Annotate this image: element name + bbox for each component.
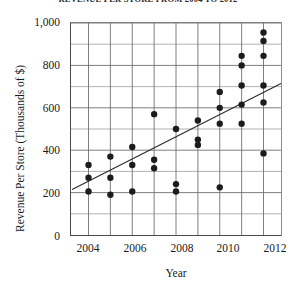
data-point [85, 175, 91, 181]
data-point [260, 53, 266, 59]
data-point [195, 117, 201, 123]
data-point [173, 188, 179, 194]
y-tick-label: 0 [16, 231, 60, 243]
y-tick-label: 400 [16, 145, 60, 157]
y-tick-label: 200 [16, 188, 60, 200]
data-point [238, 82, 244, 88]
data-point [260, 38, 266, 44]
data-point [107, 153, 113, 159]
data-point [173, 181, 179, 187]
data-point [129, 162, 135, 168]
x-tick-label: 2010 [206, 243, 250, 255]
data-point [260, 29, 266, 35]
data-point [151, 111, 157, 117]
data-point [217, 89, 223, 95]
data-point [238, 62, 244, 68]
x-tick-label: 2012 [253, 243, 296, 255]
data-point [217, 121, 223, 127]
data-point [195, 142, 201, 148]
data-point [151, 165, 157, 171]
data-point [107, 175, 113, 181]
data-point [260, 82, 266, 88]
data-point [238, 121, 244, 127]
data-point [107, 192, 113, 198]
data-layer [71, 23, 281, 235]
y-tick-label: 800 [16, 60, 60, 72]
data-point [129, 188, 135, 194]
data-point [260, 150, 266, 156]
y-tick-label: 600 [16, 103, 60, 115]
data-point [85, 188, 91, 194]
scatter-plot-figure: REVENUE PER STORE FROM 2004 TO 2012 Reve… [0, 0, 296, 293]
data-point [260, 99, 266, 105]
x-tick-label: 2004 [66, 243, 110, 255]
x-tick-label: 2008 [160, 243, 204, 255]
data-point [129, 144, 135, 150]
x-axis-label: Year [70, 267, 282, 279]
data-point [217, 105, 223, 111]
data-point [85, 162, 91, 168]
x-tick-label: 2006 [113, 243, 157, 255]
data-point [238, 101, 244, 107]
data-point [217, 184, 223, 190]
data-point [151, 157, 157, 163]
plot-area [70, 22, 282, 236]
data-point [173, 126, 179, 132]
data-point [238, 53, 244, 59]
y-tick-label: 1,000 [16, 17, 60, 29]
